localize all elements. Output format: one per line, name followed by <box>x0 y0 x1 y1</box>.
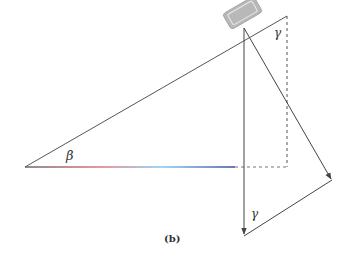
gamma-bottom-label: γ <box>251 207 259 221</box>
beta-label: β <box>65 148 74 163</box>
gamma-top-label: γ <box>274 26 282 40</box>
figure-caption: (b) <box>164 233 180 244</box>
incline-force-diagram: β γ γ (b) <box>0 0 347 258</box>
block <box>222 0 262 30</box>
incline-line <box>25 16 287 167</box>
